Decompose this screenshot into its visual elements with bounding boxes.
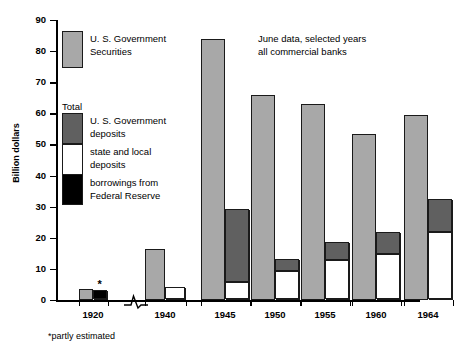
y-tick-label: 30 — [35, 200, 46, 213]
bar-securities-1950 — [251, 95, 275, 300]
bar-securities-1920 — [79, 289, 93, 300]
legend-swatch-borrowings — [62, 174, 83, 205]
y-tick: 50 — [50, 144, 56, 145]
y-tick-label: 70 — [35, 75, 46, 88]
bar-segment-u-s-government-deposits-1950 — [275, 259, 299, 271]
x-tick — [201, 300, 202, 306]
bar-total-1964 — [429, 200, 453, 300]
bar-securities-1964 — [404, 115, 428, 300]
bar-securities-1960 — [352, 134, 376, 300]
x-tick-label-1950: 1950 — [264, 309, 285, 320]
y-axis-label: Billion dollars — [11, 93, 21, 213]
x-tick-label-1964: 1964 — [417, 309, 438, 320]
bar-segment-state-and-local-deposits-1955 — [325, 260, 349, 300]
y-tick: 90 — [50, 20, 56, 21]
y-tick-label: 40 — [35, 169, 46, 182]
y-tick-label: 10 — [35, 262, 46, 275]
x-tick — [352, 300, 353, 306]
x-tick-label-1940: 1940 — [154, 309, 175, 320]
caption-line-2: all commercial banks — [258, 45, 366, 58]
x-axis-line — [56, 300, 420, 302]
bar-segment-u-s-government-deposits-1964 — [428, 199, 452, 232]
bar-segment-state-and-local-deposits-1940 — [165, 287, 185, 299]
bar-total-1920 — [94, 291, 108, 300]
y-tick-label: 90 — [35, 13, 46, 26]
y-axis-line — [56, 20, 58, 301]
legend-swatch-state-local — [62, 144, 83, 175]
legend-label-securities-line2: Securities — [90, 46, 132, 59]
legend-label-state-local-line1: state and local — [90, 146, 151, 159]
bar-total-1950 — [276, 260, 300, 300]
x-tick — [404, 300, 405, 306]
y-tick-label: 0 — [41, 293, 46, 306]
y-tick: 80 — [50, 51, 56, 52]
bar-total-1940 — [166, 288, 186, 300]
x-tick-label-1960: 1960 — [365, 309, 386, 320]
chart-footnote: *partly estimated — [48, 331, 115, 341]
y-tick: 70 — [50, 82, 56, 83]
legend-label-govt-deposits-line1: U. S. Government — [90, 115, 166, 128]
x-tick-label-1920: 1920 — [82, 309, 103, 320]
bar-segment-state-and-local-deposits-1964 — [428, 232, 452, 299]
y-tick-label: 80 — [35, 44, 46, 57]
y-tick: 40 — [50, 176, 56, 177]
y-tick: 20 — [50, 238, 56, 239]
chart-caption: June data, selected years all commercial… — [258, 32, 366, 58]
bar-segment-u-s-government-deposits-1960 — [376, 232, 400, 254]
x-tick-label-1955: 1955 — [314, 309, 335, 320]
axis-break-icon — [124, 292, 148, 310]
caption-line-1: June data, selected years — [258, 32, 366, 45]
bar-segment-state-and-local-deposits-1945 — [225, 282, 249, 299]
y-tick-label: 60 — [35, 106, 46, 119]
bar-segment-state-and-local-deposits-1960 — [376, 254, 400, 299]
y-tick: 0 — [50, 300, 56, 301]
bar-total-1955 — [326, 243, 350, 300]
x-tick — [301, 300, 302, 306]
bar-segment-u-s-government-deposits-1955 — [325, 242, 349, 260]
x-tick-label-1945: 1945 — [214, 309, 235, 320]
y-tick: 60 — [50, 113, 56, 114]
legend-label-total: Total — [62, 101, 82, 112]
legend-label-state-local-line2: deposits — [90, 159, 125, 172]
x-tick — [186, 300, 187, 306]
y-tick: 30 — [50, 207, 56, 208]
legend-label-securities-line1: U. S. Government — [90, 33, 166, 46]
bar-segment-state-and-local-deposits-1950 — [275, 271, 299, 299]
y-tick-label: 20 — [35, 231, 46, 244]
x-tick — [108, 300, 109, 306]
bar-securities-1945 — [201, 39, 225, 300]
x-tick — [79, 300, 80, 306]
x-tick — [251, 300, 252, 306]
bar-total-1960 — [377, 233, 401, 300]
legend-label-borrowings-line1: borrowings from — [90, 177, 158, 190]
legend-swatch-securities — [62, 31, 83, 68]
legend-label-borrowings-line2: Federal Reserve — [90, 190, 160, 203]
bar-securities-1955 — [301, 104, 325, 300]
x-tick — [401, 300, 402, 306]
y-tick: 10 — [50, 269, 56, 270]
legend-label-govt-deposits-line2: deposits — [90, 128, 125, 141]
partly-estimated-marker: * — [98, 281, 102, 287]
bar-total-1945 — [226, 210, 250, 300]
bar-segment-borrowings-from-federal-reserve-1920 — [93, 290, 107, 299]
y-tick-label: 50 — [35, 137, 46, 150]
legend-swatch-govt-deposits — [62, 113, 83, 144]
bar-segment-u-s-government-deposits-1945 — [225, 209, 249, 282]
